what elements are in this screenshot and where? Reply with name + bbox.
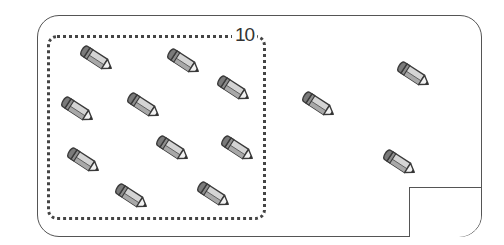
pencil-icon [220,135,256,163]
pencil-icon [60,96,96,124]
pencil-icon [301,91,337,119]
pencil-icon [166,48,202,76]
pencil-icon [382,149,418,177]
pencil-icon [216,75,252,103]
answer-box[interactable] [409,187,481,237]
pencil-icon [396,61,432,89]
pencil-icon [66,147,102,175]
group-label: 10 [232,25,257,45]
pencil-icon [126,92,162,120]
pencil-icon [196,181,232,209]
pencil-icon [79,45,115,73]
pencil-icon [114,183,150,211]
pencil-icon [155,135,191,163]
